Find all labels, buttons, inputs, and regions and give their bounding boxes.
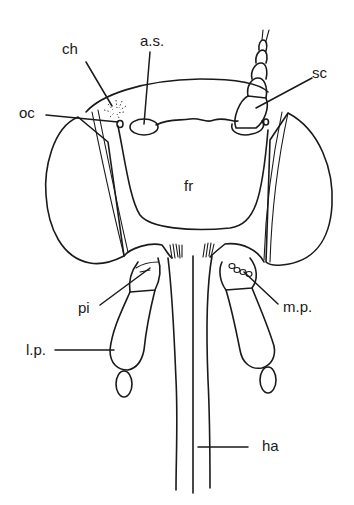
right-labial-palp-tip <box>260 367 276 393</box>
label-as: a.s. <box>140 32 164 49</box>
haustellum <box>168 256 212 493</box>
right-labial-palp <box>226 288 275 368</box>
left-labial-palp <box>110 290 155 370</box>
left-compound-eye <box>46 117 124 264</box>
right-ocellus <box>264 119 269 125</box>
insect-head-diagram: ch a.s. sc oc fr pi m.p. l.p. ha <box>0 0 354 505</box>
left-clypeal-lobe <box>124 244 172 258</box>
label-ha: ha <box>262 437 279 454</box>
label-ch: ch <box>62 40 78 57</box>
label-mp: m.p. <box>283 298 312 315</box>
label-pi: pi <box>78 299 90 316</box>
label-lp: l.p. <box>26 341 46 358</box>
antenna <box>235 30 269 128</box>
bristles <box>170 243 214 258</box>
left-gena-line-2 <box>98 110 128 252</box>
left-labial-palp-tip <box>116 371 132 397</box>
right-clypeal-lobe <box>210 244 264 262</box>
label-oc: oc <box>19 104 35 121</box>
chaetae-cluster <box>104 100 126 118</box>
right-stipes <box>220 258 256 290</box>
left-stipes <box>129 258 160 292</box>
right-maxillary-palp <box>229 264 252 277</box>
vertex-outline <box>86 79 268 112</box>
label-fr: fr <box>184 177 193 194</box>
label-sc: sc <box>312 64 328 81</box>
